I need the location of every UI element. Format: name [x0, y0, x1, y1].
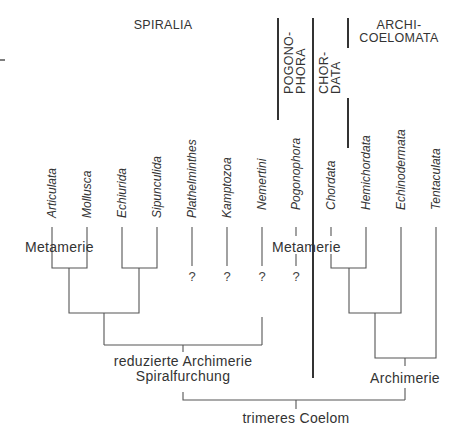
taxon-label-articulata: Articulata — [45, 168, 59, 219]
taxon-labels: Articulata Mollusca Echiurida Sipunculid… — [45, 129, 443, 219]
taxon-label-plathelminthes: Plathelminthes — [185, 139, 199, 218]
svg-text:PHORA: PHORA — [294, 48, 308, 94]
taxon-label-echinodermata: Echinodermata — [394, 129, 408, 210]
cladogram: SPIRALIA POGONO- PHORA CHOR- DATA ARCHI-… — [0, 0, 464, 430]
taxon-label-sipunculida: Sipunculida — [150, 156, 164, 218]
character-label-trimeres-coelom: trimeres Coelom — [242, 410, 349, 426]
character-label-metamerie-left: Metamerie — [25, 239, 94, 255]
uncertain-mark-nemertini: ? — [258, 269, 265, 284]
taxon-label-echiurida: Echiurida — [115, 168, 129, 218]
character-label-spiralfurchung: Spiralfurchung — [136, 368, 230, 384]
uncertain-mark-pogonophora: ? — [292, 269, 299, 284]
svg-text:COELOMATA: COELOMATA — [359, 31, 439, 45]
taxon-label-tentaculata: Tentaculata — [429, 148, 443, 210]
taxon-label-chordata: Chordata — [324, 160, 338, 210]
taxon-label-hemichordata: Hemichordata — [359, 135, 373, 210]
taxon-label-nemertini: Nemertini — [255, 158, 269, 210]
group-label-spiralia: SPIRALIA — [134, 18, 193, 32]
svg-text:DATA: DATA — [329, 61, 343, 94]
character-label-metamerie-right: Metamerie — [272, 239, 341, 255]
svg-text:ARCHI-: ARCHI- — [377, 18, 422, 32]
group-label-archicoelomata: ARCHI- COELOMATA — [359, 18, 439, 45]
character-label-reduzierte-archimerie: reduzierte Archimerie — [114, 353, 253, 369]
group-label-pogonophora: POGONO- PHORA — [282, 31, 308, 94]
taxon-label-kamptozoa: Kamptozoa — [220, 157, 234, 218]
character-label-archimerie: Archimerie — [370, 370, 440, 386]
uncertain-mark-kamptozoa: ? — [223, 269, 230, 284]
taxon-label-mollusca: Mollusca — [80, 170, 94, 218]
taxon-label-pogonophora: Pogonophora — [289, 138, 303, 210]
group-label-chordata: CHOR- DATA — [317, 52, 343, 94]
uncertain-mark-plathelminthes: ? — [188, 269, 195, 284]
